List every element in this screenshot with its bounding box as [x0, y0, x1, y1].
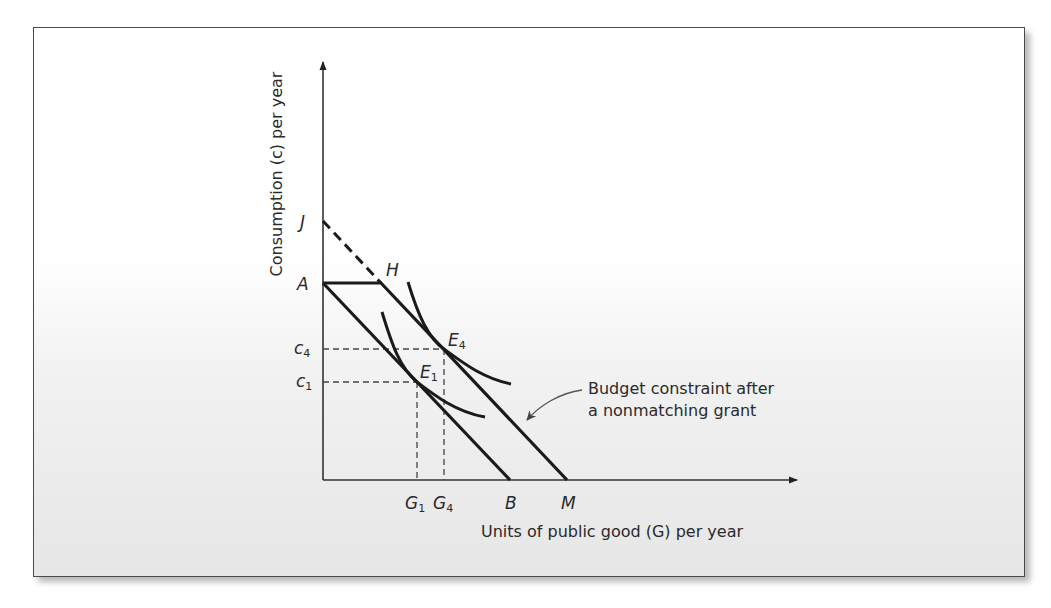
label-a: A [296, 274, 309, 294]
label-j: J [297, 212, 305, 232]
label-c4-sub: 4 [303, 347, 310, 360]
annotation-line-2: a nonmatching grant [588, 401, 756, 420]
label-e1-main: E [420, 362, 431, 382]
x-axis-title: Units of public good (G) per year [481, 522, 743, 541]
label-g1-main: G [405, 493, 418, 513]
label-e4-sub: 4 [459, 339, 466, 352]
label-h: H [386, 260, 399, 280]
chart-canvas: Consumption (c) per year J A H c4 c1 E4 … [0, 0, 1051, 608]
label-g4-main: G [433, 493, 446, 513]
label-c4: c4 [294, 338, 310, 360]
label-e4-main: E [448, 330, 459, 350]
label-g1-sub: 1 [418, 502, 425, 515]
annotation-arrow [527, 390, 582, 420]
budget-extension-jh [323, 221, 381, 283]
label-c1: c1 [296, 371, 312, 393]
y-axis-title: Consumption (c) per year [267, 71, 286, 276]
label-c1-sub: 1 [305, 380, 312, 393]
label-b: B [505, 493, 517, 513]
label-e4: E4 [448, 330, 466, 352]
budget-line-ahm [323, 283, 567, 480]
label-g1: G1 [405, 493, 425, 515]
label-m: M [561, 493, 576, 513]
label-g4: G4 [433, 493, 453, 515]
label-e1-sub: 1 [431, 371, 438, 384]
label-h-text: H [386, 260, 399, 280]
label-e1: E1 [420, 362, 438, 384]
annotation-line-1: Budget constraint after [588, 379, 775, 398]
label-g4-sub: 4 [446, 502, 453, 515]
